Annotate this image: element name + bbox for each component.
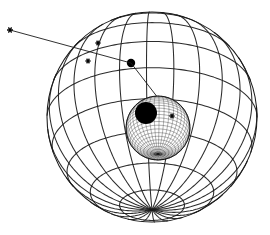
- inner-sphere: [126, 96, 190, 160]
- sphere-diagram-svg: [0, 0, 270, 235]
- figure-canvas: [0, 0, 270, 235]
- pole-cap: [135, 102, 157, 124]
